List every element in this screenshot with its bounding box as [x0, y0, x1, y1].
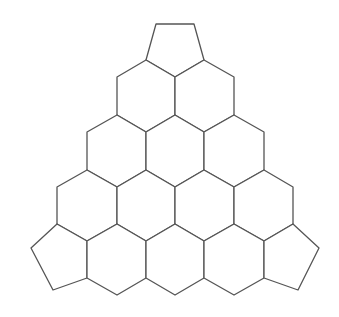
row-3: [87, 115, 264, 187]
polygon-tiling-diagram: [0, 0, 339, 317]
row-5: [31, 224, 319, 295]
tiling-svg: [0, 0, 339, 317]
